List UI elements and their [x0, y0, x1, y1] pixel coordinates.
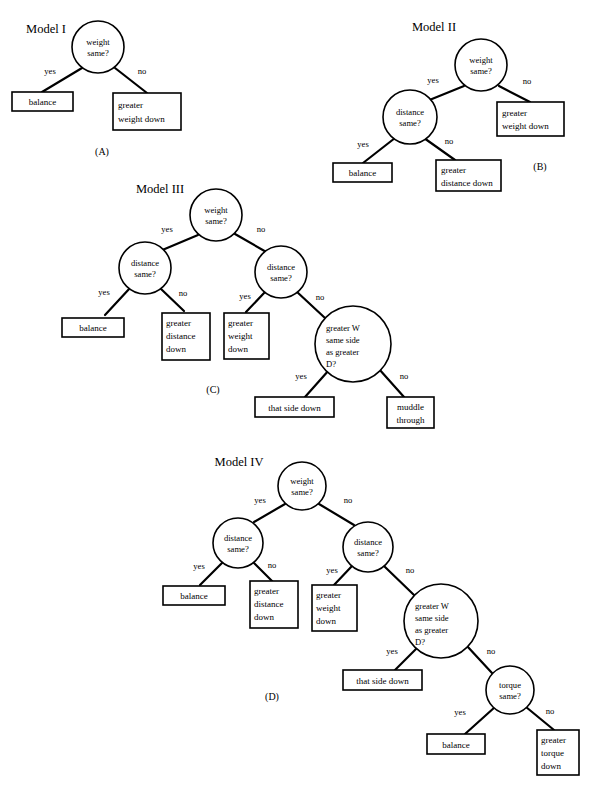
- node-d-dr-line1: distance: [354, 537, 382, 547]
- node-d-gwd-line1: greater: [316, 590, 341, 600]
- node-c-dr-line1: distance: [267, 262, 295, 272]
- edge-c-weight-no: [235, 234, 268, 253]
- node-b-gwd-line2: weight down: [502, 121, 549, 131]
- node-b-distance-same[interactable]: [383, 90, 437, 144]
- node-greater-weight-down-box[interactable]: [113, 93, 181, 130]
- edge-label-no: no: [138, 66, 147, 76]
- edge-b-weight-no-greaterweightdown: [499, 86, 530, 102]
- edge-d-weight-no: [319, 504, 354, 525]
- node-b-gdd-line1: greater: [441, 165, 466, 175]
- panel-model-1: Model I yes no weight same? balance grea…: [12, 21, 181, 158]
- edge-d-label-no-2: no: [268, 560, 277, 570]
- node-greater-weight-down-line1: greater: [118, 100, 143, 110]
- edge-b-label-yes-bottom: yes: [357, 139, 369, 149]
- node-c-gwd-line3: down: [228, 344, 248, 354]
- node-c-gw-line1: greater W: [326, 323, 361, 333]
- node-weight-line1: weight: [86, 37, 110, 47]
- node-greater-weight-down-line2: weight down: [118, 114, 165, 124]
- node-b-gwd-line1: greater: [502, 108, 527, 118]
- node-b-balance-label: balance: [349, 168, 376, 178]
- edge-c-label-no-3: no: [316, 292, 325, 302]
- decision-tree-figure: Model I yes no weight same? balance grea…: [0, 0, 602, 796]
- edge-c-label-yes-2: yes: [98, 287, 110, 297]
- panel-b-title: Model II: [412, 20, 456, 34]
- edge-c-gw-yes: [305, 370, 329, 397]
- node-d-tsd-label: that side down: [356, 676, 409, 686]
- edge-c-label-no-1: no: [257, 224, 266, 234]
- node-b-weight-line1: weight: [469, 55, 493, 65]
- node-c-gw-line3: as greater: [326, 347, 359, 357]
- edge-c-label-no-2: no: [179, 288, 188, 298]
- node-d-gdd-line1: greater: [254, 586, 279, 596]
- node-b-weight-line2: same?: [470, 66, 492, 76]
- edge-d-label-no-3: no: [406, 565, 415, 575]
- edge-d-label-yes-3: yes: [326, 565, 338, 575]
- node-c-mud-line1: muddle: [397, 402, 424, 412]
- edge-c-weight-yes: [160, 235, 198, 251]
- node-c-weight-line1: weight: [204, 205, 228, 215]
- node-d-gtd-line3: down: [541, 761, 561, 771]
- node-b-weight-same[interactable]: [455, 39, 507, 91]
- node-c-gw-line4: D?: [326, 359, 336, 369]
- node-d-gtd-line1: greater: [541, 735, 566, 745]
- node-d-tq-line1: torque: [499, 680, 521, 690]
- node-c-dr-line2: same?: [270, 273, 292, 283]
- node-c-balance-label: balance: [79, 323, 106, 333]
- node-d-distance-left[interactable]: [213, 518, 263, 568]
- node-d-weight-line1: weight: [290, 476, 314, 486]
- panel-a-title: Model I: [26, 22, 66, 36]
- edge-c-label-yes-1: yes: [161, 224, 173, 234]
- edge-d-label-yes-4: yes: [386, 646, 398, 656]
- panel-d-title: Model IV: [215, 455, 264, 469]
- node-c-weight-line2: same?: [205, 216, 227, 226]
- node-c-weight-same[interactable]: [190, 189, 242, 241]
- panel-model-2: Model II yes no yes no weight same? dist…: [333, 20, 564, 191]
- node-c-gwd-line1: greater: [228, 318, 253, 328]
- node-d-balance2-label: balance: [442, 740, 469, 750]
- node-c-dl-line1: distance: [131, 258, 159, 268]
- node-c-distance-right[interactable]: [255, 246, 307, 298]
- edge-d-label-yes-1: yes: [254, 495, 266, 505]
- edge-d-label-no-4: no: [487, 646, 496, 656]
- panel-model-4: Model IV yes no yes no yes no yes no yes…: [163, 455, 579, 775]
- edge-d-label-no-5: no: [546, 706, 555, 716]
- node-c-gdd-line1: greater: [166, 318, 191, 328]
- node-b-gdd-line2: distance down: [441, 178, 493, 188]
- edge-c-label-no-4: no: [400, 371, 409, 381]
- node-c-mud-line2: through: [397, 415, 425, 425]
- node-d-tq-line2: same?: [499, 691, 521, 701]
- node-c-gwd-line2: weight: [228, 331, 253, 341]
- node-c-dl-line2: same?: [134, 269, 156, 279]
- node-d-gtd-line2: torque: [541, 748, 564, 758]
- edge-b-label-no-bottom: no: [445, 136, 454, 146]
- node-d-weight-same[interactable]: [278, 462, 326, 510]
- panel-d-label: (D): [265, 691, 279, 703]
- edge-label-yes: yes: [44, 66, 56, 76]
- edge-d-label-no-1: no: [344, 495, 353, 505]
- node-balance-label: balance: [29, 97, 56, 107]
- node-d-distance-right[interactable]: [343, 522, 393, 572]
- node-d-weight-line2: same?: [291, 487, 313, 497]
- node-d-gdd-line2: distance: [254, 599, 284, 609]
- node-b-distance-line1: distance: [396, 107, 424, 117]
- edge-b-weight-yes-distance: [427, 86, 464, 101]
- node-weight-same[interactable]: [72, 21, 124, 73]
- edge-b-label-no-top: no: [523, 76, 532, 86]
- node-d-gw-line1: greater W: [415, 601, 450, 611]
- node-c-distance-left[interactable]: [119, 242, 171, 294]
- node-d-dr-line2: same?: [357, 548, 379, 558]
- node-d-gdd-line3: down: [254, 612, 274, 622]
- edge-d-gw-yes: [395, 648, 417, 670]
- node-d-dl-line2: same?: [227, 544, 249, 554]
- node-c-gdd-line2: distance: [166, 331, 196, 341]
- edge-d-torque-yes: [465, 707, 495, 734]
- panel-c-label: (C): [206, 384, 219, 396]
- edge-c-label-yes-4: yes: [295, 371, 307, 381]
- edge-d-label-yes-5: yes: [454, 707, 466, 717]
- node-d-dl-line1: distance: [224, 533, 252, 543]
- node-d-torque-same[interactable]: [486, 666, 534, 714]
- edge-d-label-yes-2: yes: [193, 561, 205, 571]
- node-d-gwd-line2: weight: [316, 603, 341, 613]
- panel-c-title: Model III: [136, 182, 184, 196]
- node-c-gw-line2: same side: [326, 335, 360, 345]
